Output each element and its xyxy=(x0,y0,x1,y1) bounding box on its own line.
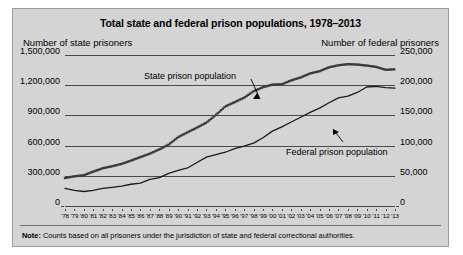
x-axis-tick-mark xyxy=(376,209,377,211)
x-axis-tick-mark xyxy=(65,209,66,211)
x-axis-tick-mark xyxy=(131,209,132,211)
x-axis-tick-mark xyxy=(301,209,302,211)
y-axis-tick-label-left: 300,000 xyxy=(27,172,60,173)
x-axis-tick-label: '81 xyxy=(89,212,97,219)
x-axis-labels: '78'79'80'81'82'83'84'85'86'87'88'89'90'… xyxy=(65,209,395,223)
x-axis-tick-label: '98 xyxy=(250,212,258,219)
x-axis-tick-label: '04 xyxy=(306,212,314,219)
note-separator xyxy=(20,225,441,226)
y-axis-tick-label-left: 600,000 xyxy=(27,142,60,143)
y-axis-tick-label-right: 50,000 xyxy=(400,172,428,173)
x-axis-tick-mark xyxy=(206,209,207,211)
y-axis-tick-label-right: 250,000 xyxy=(400,51,433,52)
x-axis-tick-mark xyxy=(282,209,283,211)
x-axis-tick-mark xyxy=(254,209,255,211)
x-axis-tick-label: '05 xyxy=(316,212,324,219)
y-axis-tick-label-left: 0 xyxy=(55,202,60,203)
x-axis-tick-label: '94 xyxy=(212,212,220,219)
x-axis-tick-mark xyxy=(310,209,311,211)
x-axis-tick-label: '79 xyxy=(70,212,78,219)
x-axis-tick-mark xyxy=(197,209,198,211)
x-axis-tick-mark xyxy=(74,209,75,211)
y-axis-tick-label-right: 200,000 xyxy=(400,81,433,82)
x-axis-tick-label: '99 xyxy=(259,212,267,219)
note-label: Note: xyxy=(22,231,41,240)
x-axis-line xyxy=(65,206,395,207)
x-axis-tick-mark xyxy=(395,209,396,211)
x-axis-tick-label: '03 xyxy=(297,212,305,219)
axis-tick-mark xyxy=(61,206,64,207)
state-series-annotation: State prison population xyxy=(144,71,236,81)
x-axis-tick-label: '95 xyxy=(221,212,229,219)
x-axis-tick-mark xyxy=(188,209,189,211)
x-axis-tick-label: '01 xyxy=(278,212,286,219)
x-axis-tick-mark xyxy=(348,209,349,211)
y-axis-tick-label-right: 0 xyxy=(400,202,405,203)
x-axis-tick-mark xyxy=(112,209,113,211)
x-axis-tick-label: '89 xyxy=(165,212,173,219)
x-axis-tick-label: '97 xyxy=(240,212,248,219)
x-axis-tick-mark xyxy=(84,209,85,211)
x-axis-tick-label: '06 xyxy=(325,212,333,219)
x-axis-tick-mark xyxy=(140,209,141,211)
x-axis-tick-mark xyxy=(225,209,226,211)
x-axis-tick-label: '93 xyxy=(202,212,210,219)
x-axis-tick-mark xyxy=(338,209,339,211)
y-axis-tick-label-right: 150,000 xyxy=(400,111,433,112)
x-axis-tick-label: '86 xyxy=(136,212,144,219)
x-axis-tick-label: '13 xyxy=(391,212,399,219)
y-axis-tick-label-left: 1,500,000 xyxy=(20,51,60,52)
x-axis-tick-mark xyxy=(367,209,368,211)
x-axis-tick-mark xyxy=(150,209,151,211)
x-axis-tick-mark xyxy=(103,209,104,211)
x-axis-tick-label: '78 xyxy=(61,212,69,219)
x-axis-tick-mark xyxy=(159,209,160,211)
x-axis-tick-label: '90 xyxy=(174,212,182,219)
x-axis-tick-label: '07 xyxy=(334,212,342,219)
x-axis-tick-mark xyxy=(357,209,358,211)
chart-title: Total state and federal prison populatio… xyxy=(13,17,448,29)
state-series-dot xyxy=(393,68,395,70)
x-axis-tick-mark xyxy=(178,209,179,211)
x-axis-tick-mark xyxy=(329,209,330,211)
x-axis-tick-mark xyxy=(93,209,94,211)
axis-tick-mark xyxy=(396,206,399,207)
x-axis-tick-label: '92 xyxy=(193,212,201,219)
chart-note: Note: Counts based on all prisoners unde… xyxy=(22,231,439,240)
x-axis-tick-mark xyxy=(320,209,321,211)
x-axis-tick-mark xyxy=(244,209,245,211)
x-axis-tick-mark xyxy=(386,209,387,211)
federal-series-annotation: Federal prison population xyxy=(286,147,388,157)
note-body: Counts based on all prisoners under the … xyxy=(41,231,355,240)
federal-prison-line xyxy=(65,86,395,191)
x-axis-tick-mark xyxy=(235,209,236,211)
x-axis-tick-mark xyxy=(272,209,273,211)
x-axis-tick-label: '84 xyxy=(118,212,126,219)
x-axis-tick-mark xyxy=(216,209,217,211)
x-axis-tick-label: '00 xyxy=(268,212,276,219)
x-axis-tick-mark xyxy=(122,209,123,211)
x-axis-tick-label: '87 xyxy=(146,212,154,219)
x-axis-tick-label: '10 xyxy=(363,212,371,219)
x-axis-tick-label: '09 xyxy=(353,212,361,219)
x-axis-tick-mark xyxy=(291,209,292,211)
x-axis-tick-label: '96 xyxy=(231,212,239,219)
y-axis-tick-label-left: 900,000 xyxy=(27,111,60,112)
x-axis-tick-label: '11 xyxy=(372,212,380,219)
y-axis-tick-label-right: 100,000 xyxy=(400,142,433,143)
x-axis-tick-label: '82 xyxy=(99,212,107,219)
y-axis-tick-label-left: 1,200,000 xyxy=(20,81,60,82)
x-axis-tick-label: '02 xyxy=(287,212,295,219)
annotation-leader-lines xyxy=(251,79,343,142)
x-axis-tick-label: '91 xyxy=(184,212,192,219)
figure-panel: Total state and federal prison populatio… xyxy=(12,8,449,247)
x-axis-tick-label: '83 xyxy=(108,212,116,219)
x-axis-tick-label: '88 xyxy=(155,212,163,219)
x-axis-tick-mark xyxy=(169,209,170,211)
x-axis-tick-label: '12 xyxy=(382,212,390,219)
x-axis-tick-mark xyxy=(263,209,264,211)
x-axis-tick-label: '85 xyxy=(127,212,135,219)
x-axis-tick-label: '80 xyxy=(80,212,88,219)
x-axis-tick-label: '08 xyxy=(344,212,352,219)
